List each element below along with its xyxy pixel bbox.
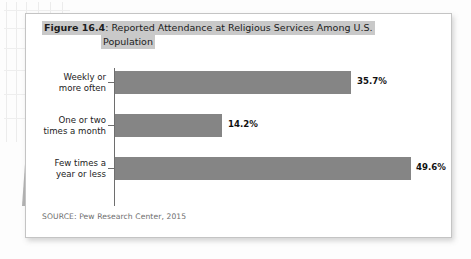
figure-title-text-line1: Reported Attendance at Religious Service… — [111, 22, 372, 33]
bar-one-or-two-times-a-month — [115, 114, 222, 137]
category-label-one-or-two-times-a-month: One or two times a month — [26, 115, 106, 137]
figure-title-text-line2: Population — [101, 35, 155, 49]
bar-value-weekly-or-more-often: 35.7% — [357, 76, 387, 86]
y-axis-tick — [108, 168, 115, 169]
category-label-weekly-or-more-often: Weekly or more often — [26, 72, 106, 94]
figure-title-highlight-line1: Figure 16.4: Reported Attendance at Reli… — [42, 21, 375, 35]
source-note: SOURCE: Pew Research Center, 2015 — [42, 212, 186, 221]
figure-title-line2-wrapper: Population — [101, 35, 402, 48]
y-axis-tick — [108, 82, 115, 83]
category-label-line1: Few times a — [55, 158, 106, 168]
category-label-line2: year or less — [56, 169, 106, 179]
category-label-few-times-a-year-or-less: Few times a year or less — [26, 158, 106, 180]
y-axis-tick — [108, 125, 115, 126]
bar-row: One or two times a month 14.2% — [26, 109, 453, 155]
category-label-line1: Weekly or — [63, 72, 106, 82]
bar-row: Few times a year or less 49.6% — [26, 152, 453, 198]
figure-card: Figure 16.4: Reported Attendance at Reli… — [25, 13, 452, 238]
figure-title: Figure 16.4: Reported Attendance at Reli… — [42, 21, 402, 48]
category-label-line2: more often — [59, 83, 106, 93]
bar-value-few-times-a-year-or-less: 49.6% — [416, 162, 446, 172]
bar-value-one-or-two-times-a-month: 14.2% — [228, 119, 258, 129]
bar-row: Weekly or more often 35.7% — [26, 66, 453, 112]
bar-chart-plot-area: Weekly or more often 35.7% One or two ti… — [26, 66, 453, 206]
category-label-line2: times a month — [43, 126, 106, 136]
bar-weekly-or-more-often — [115, 71, 351, 94]
category-label-line1: One or two — [59, 115, 106, 125]
bar-few-times-a-year-or-less — [115, 157, 411, 180]
figure-number: Figure 16.4 — [44, 22, 105, 33]
